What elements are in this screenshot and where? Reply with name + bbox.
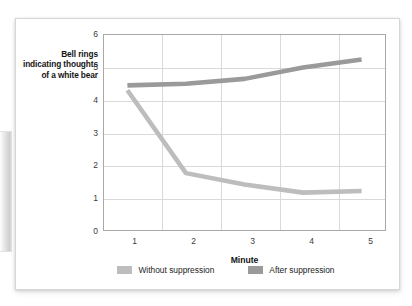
series-line-without-suppression bbox=[127, 90, 361, 192]
plot-area bbox=[103, 34, 386, 231]
legend-item-without-suppression: Without suppression bbox=[117, 265, 214, 275]
y-tick-5: 5 bbox=[82, 63, 98, 72]
series-line-after-suppression bbox=[127, 59, 361, 85]
legend-label-after-suppression: After suppression bbox=[269, 265, 334, 275]
y-tick-3: 3 bbox=[82, 129, 98, 138]
y-tick-4: 4 bbox=[82, 96, 98, 105]
x-tick-2: 2 bbox=[184, 237, 204, 246]
legend-swatch-icon bbox=[117, 266, 132, 274]
chart-legend: Without suppression After suppression bbox=[76, 265, 376, 275]
x-tick-4: 4 bbox=[302, 237, 322, 246]
y-tick-2: 2 bbox=[82, 161, 98, 170]
x-tick-1: 1 bbox=[125, 237, 145, 246]
chart-plot-svg bbox=[104, 35, 385, 230]
legend-swatch-icon bbox=[248, 266, 263, 274]
x-tick-3: 3 bbox=[243, 237, 263, 246]
figure-card: Bell rings indicating thoughts of a whit… bbox=[15, 18, 400, 290]
y-tick-1: 1 bbox=[82, 194, 98, 203]
y-tick-6: 6 bbox=[82, 30, 98, 39]
y-tick-0: 0 bbox=[82, 227, 98, 236]
x-axis-title: Minute bbox=[103, 255, 386, 265]
x-tick-5: 5 bbox=[361, 237, 381, 246]
adjacent-panel-sliver bbox=[0, 131, 12, 252]
legend-label-without-suppression: Without suppression bbox=[138, 265, 214, 275]
legend-item-after-suppression: After suppression bbox=[248, 265, 334, 275]
